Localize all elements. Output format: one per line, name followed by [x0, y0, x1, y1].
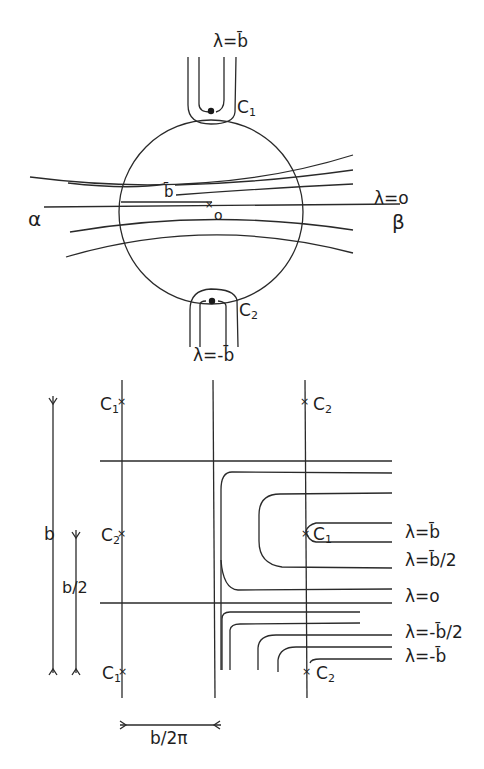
- lambda-neg-b-bottom-label: λ=-b̄: [193, 347, 234, 364]
- bottom-inner-right-curve: [218, 301, 226, 347]
- c1-mid-label: C1: [313, 526, 332, 545]
- c2-top-subscript: 2: [325, 403, 332, 416]
- unit-circle: [119, 120, 303, 304]
- origin-label: o: [214, 208, 223, 222]
- bottom-outer-u-curve: [190, 289, 238, 347]
- b-span-label: b: [44, 526, 55, 543]
- flow-line-3: [176, 184, 353, 195]
- c2-mid-letter: C: [101, 525, 113, 545]
- lambda-level-zero: λ=o: [405, 588, 440, 605]
- c2-letter: C: [239, 300, 251, 320]
- flow-line-1: [30, 155, 353, 185]
- c2-bot-star: ×: [302, 665, 311, 678]
- c2-bot-letter: C: [316, 663, 328, 683]
- c1-top-label: C1: [100, 396, 119, 415]
- c2-bot-label: C2: [316, 665, 335, 684]
- c1-letter: C: [237, 97, 249, 117]
- c1-top-letter: C: [100, 394, 112, 414]
- c2-top-label: C2: [313, 396, 332, 415]
- top-inner-left-curve: [199, 57, 211, 112]
- flow-line-5: [66, 235, 353, 257]
- lambda-level-neg-b: λ=-b̄: [405, 648, 446, 665]
- c2-top-letter: C: [313, 394, 325, 414]
- lambda-b-top-label: λ=b̄: [213, 33, 248, 50]
- lambda-level-b: λ=b̄: [405, 524, 440, 541]
- c1-mid-letter: C: [313, 524, 325, 544]
- c2-mid-subscript: 2: [113, 534, 120, 547]
- c1-top-subscript: 1: [112, 403, 119, 416]
- c1-bot-letter: C: [102, 663, 114, 683]
- alpha-label: α: [28, 209, 41, 229]
- lambda-zero-label: λ=o: [374, 190, 409, 207]
- lambda-neg-flow-1: [222, 612, 360, 670]
- top-inner-right-curve: [216, 57, 224, 112]
- b-radius-label: b̄: [164, 185, 174, 200]
- origin-star: ×: [205, 199, 213, 210]
- c2-mid-label: C2: [101, 527, 120, 546]
- flow-line-4: [70, 219, 353, 232]
- c2-subscript: 2: [251, 309, 258, 322]
- c1-bot-label: C1: [102, 665, 121, 684]
- lambda-level-half-b: λ=b̄/2: [405, 552, 457, 569]
- c1-bot-subscript: 1: [114, 672, 121, 685]
- period-label: b/2π: [150, 730, 188, 747]
- lambda-level-neg-half-b: λ=-b̄/2: [405, 624, 463, 641]
- bottom-figure: × × × × × ×: [49, 380, 392, 729]
- beta-label: β: [392, 212, 405, 232]
- c1-subscript: 1: [249, 106, 256, 119]
- top-figure: ×: [30, 57, 400, 347]
- c1-mid-star: ×: [301, 527, 310, 540]
- b-half-label: b/2: [62, 580, 88, 596]
- c1-mid-subscript: 1: [325, 533, 332, 546]
- c2-bot-subscript: 2: [328, 672, 335, 685]
- middle-vertical-line: [213, 380, 215, 698]
- c1-pole-dot: [208, 108, 214, 114]
- c2-label: C2: [239, 302, 258, 321]
- c2-pole-dot: [209, 298, 215, 304]
- c2-top-star: ×: [300, 395, 309, 408]
- c1-label: C1: [237, 99, 256, 118]
- bottom-inner-left-curve: [200, 301, 206, 347]
